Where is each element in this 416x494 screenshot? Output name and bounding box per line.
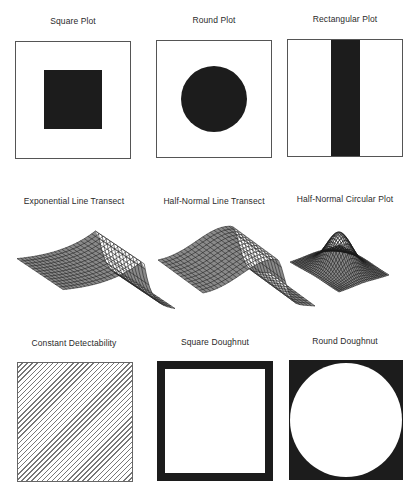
- square-doughnut-title: Square Doughnut: [181, 337, 249, 347]
- round-doughnut-title: Round Doughnut: [312, 336, 378, 346]
- exponential-surface: [17, 231, 175, 309]
- half-normal-line-surface: [158, 226, 315, 306]
- half-normal-circular-surface: [290, 232, 389, 292]
- constant-detectability-title: Constant Detectability: [32, 338, 117, 348]
- constant-detectability-hatched-area: [17, 362, 133, 482]
- square-doughnut-ring: [157, 361, 273, 481]
- round-doughnut-hole: [290, 363, 402, 477]
- round-doughnut-ring: [289, 360, 403, 480]
